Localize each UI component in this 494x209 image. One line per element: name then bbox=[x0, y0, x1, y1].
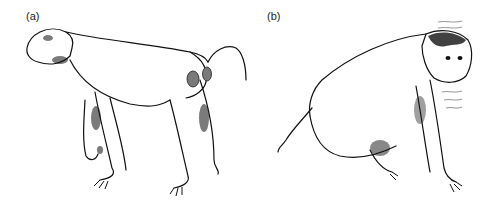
monkey-crouching-illustration bbox=[250, 0, 494, 209]
monkey-walking-illustration bbox=[0, 0, 250, 209]
panel-a: (a) bbox=[0, 0, 250, 209]
hindquarter-patch-left bbox=[187, 71, 199, 87]
hindquarter-patch-right bbox=[203, 67, 212, 81]
panel-b: (b) bbox=[250, 0, 494, 209]
